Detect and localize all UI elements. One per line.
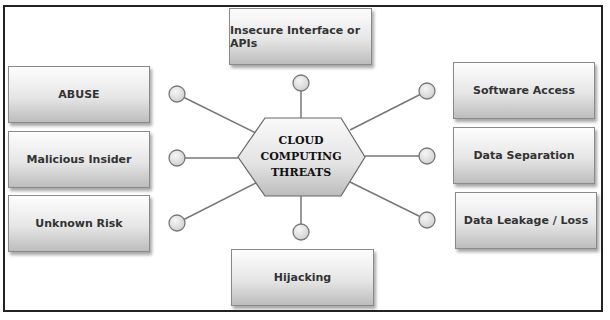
node-top [293, 75, 309, 91]
center-title-line-2: COMPUTING [260, 150, 341, 163]
threat-box-data-leakage: Data Leakage / Loss [455, 192, 597, 249]
threat-box-malicious-insider: Malicious Insider [8, 131, 150, 188]
center-title-line-1: CLOUD [278, 134, 324, 147]
threat-box-top: Insecure Interface or APIs [229, 8, 372, 65]
node-right-2 [419, 148, 435, 164]
connector-left-1 [177, 94, 256, 133]
node-bottom [293, 224, 309, 240]
connector-right-3 [350, 182, 427, 220]
node-left-3 [169, 215, 185, 231]
connector-right-1 [350, 91, 427, 130]
node-right-3 [419, 212, 435, 228]
node-right-1 [419, 83, 435, 99]
connector-left-3 [177, 183, 256, 223]
threat-box-abuse: ABUSE [8, 66, 150, 123]
threat-box-data-separation: Data Separation [453, 127, 595, 184]
node-left-2 [169, 150, 185, 166]
center-title-line-3: THREATS [271, 166, 331, 179]
node-left-1 [169, 86, 185, 102]
threat-box-unknown-risk: Unknown Risk [8, 195, 150, 252]
threat-box-software-access: Software Access [453, 62, 595, 119]
threat-box-hijacking: Hijacking [231, 249, 374, 306]
